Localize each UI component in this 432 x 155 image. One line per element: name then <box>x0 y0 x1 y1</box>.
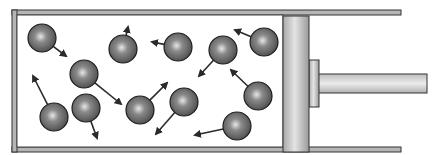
particle-sphere <box>244 82 272 110</box>
particle-sphere <box>164 33 192 61</box>
particle-sphere <box>223 112 251 140</box>
particle-sphere <box>70 60 98 88</box>
particle-sphere <box>40 103 68 131</box>
left-wall <box>12 10 17 152</box>
particle-sphere <box>250 28 278 56</box>
particle-sphere <box>72 94 100 122</box>
particle-sphere <box>28 24 56 52</box>
particle-sphere <box>209 36 237 64</box>
particle-sphere <box>170 88 198 116</box>
top-wall <box>12 10 401 15</box>
particle-sphere <box>126 96 154 124</box>
particle-sphere <box>109 35 137 63</box>
piston-head[interactable] <box>283 16 309 152</box>
piston[interactable] <box>283 16 427 152</box>
piston-cylinder-diagram <box>0 0 432 155</box>
piston-rod[interactable] <box>318 74 427 93</box>
piston-rod-mount <box>309 60 319 107</box>
bottom-wall <box>12 147 401 152</box>
